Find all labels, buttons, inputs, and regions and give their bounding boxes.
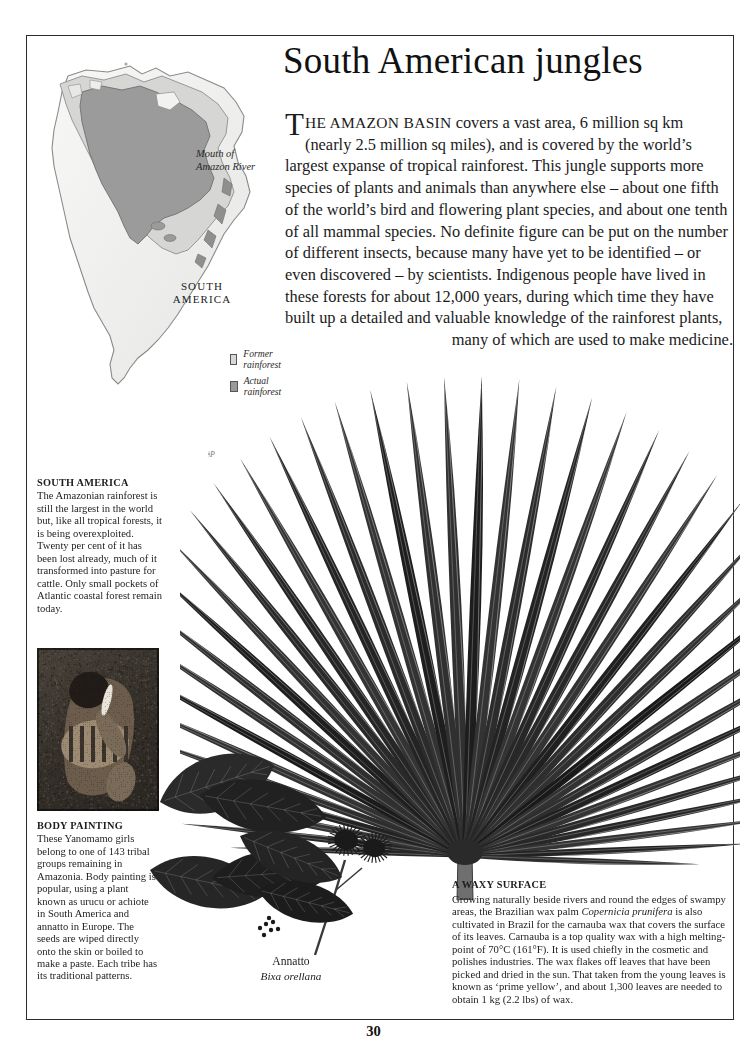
page-number: 30 (0, 1023, 747, 1040)
body-painting-photo (37, 648, 159, 811)
intro-tail-text: many of which are used to make medicine. (285, 329, 733, 351)
caption-waxy-surface-heading: A WAXY SURFACE (452, 879, 735, 892)
caption-south-america-heading: SOUTH AMERICA (37, 477, 164, 489)
map-label-south-america: SOUTH AMERICA (156, 280, 248, 306)
caption-waxy-surface-text: Growing naturally beside rivers and roun… (452, 893, 735, 1006)
footer-rule (26, 1019, 734, 1020)
south-america-map: Mouth of Amazon River SOUTH AMERICA Form… (38, 58, 283, 388)
specimen-label: Annatto Bixa orellana (213, 955, 369, 983)
waxy-text-part2: is also cultivated in Brazil for the car… (452, 905, 726, 1005)
waxy-species-name: Copernicia prunifera (581, 905, 672, 917)
intro-smallcaps: HE AMAZON BASIN (305, 114, 452, 131)
caption-south-america-text: The Amazonian rainforest is still the la… (37, 490, 164, 615)
drop-cap: T (285, 111, 305, 137)
caption-south-america: SOUTH AMERICA The Amazonian rainforest i… (37, 477, 164, 615)
map-label-amazon-mouth: Mouth of Amazon River (196, 148, 296, 173)
intro-paragraph: THE AMAZON BASIN covers a vast area, 6 m… (285, 112, 733, 351)
specimen-scientific-name: Bixa orellana (213, 969, 369, 983)
page-canvas: Mouth of Amazon River SOUTH AMERICA Form… (0, 0, 747, 1058)
caption-body-painting-text: These Yanomamo girls belong to one of 14… (37, 833, 159, 982)
photo-image (37, 648, 159, 811)
specimen-common-name: Annatto (213, 955, 369, 969)
caption-body-painting: BODY PAINTING These Yanomamo girls belon… (37, 820, 159, 983)
intro-body-text: covers a vast area, 6 million sq km (nea… (285, 113, 728, 327)
annatto-plant-illustration (140, 740, 400, 975)
map-illustration (38, 58, 283, 388)
page-title: South American jungles (283, 42, 735, 81)
caption-body-painting-heading: BODY PAINTING (37, 820, 159, 832)
caption-waxy-surface: A WAXY SURFACE Growing naturally beside … (452, 879, 735, 1005)
